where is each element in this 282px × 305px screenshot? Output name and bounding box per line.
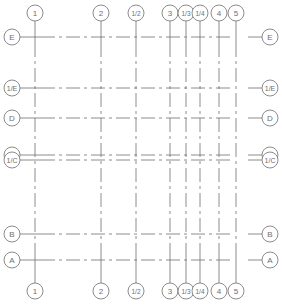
axis-label: D (9, 114, 15, 123)
horizontal-axis-bubbles: EE1/E1/EDDCC1/C1/CBBAA (4, 29, 278, 268)
vertical-axis-bubbles: 11221/21/2331/31/31/41/44455 (27, 5, 244, 299)
axis-bubble-axis-3-top[interactable]: 3 (162, 5, 178, 21)
axis-bubble-axis-a-left[interactable]: A (4, 252, 20, 268)
axis-label: 1/3 (181, 10, 190, 17)
axis-bubble-axis-5-top[interactable]: 5 (228, 5, 244, 21)
axis-bubble-axis-4-bottom[interactable]: 4 (211, 283, 227, 299)
axis-label: 1 (33, 9, 38, 18)
axis-label: 1/E (7, 85, 18, 92)
axis-label: E (9, 33, 14, 42)
axis-label: 1/3 (181, 288, 190, 295)
axis-label: 1 (33, 287, 38, 296)
axis-grid: EE1/E1/EDDCC1/C1/CBBAA 11221/21/2331/31/… (0, 0, 282, 305)
axis-label: 5 (234, 287, 239, 296)
axis-label: D (267, 114, 273, 123)
horizontal-axis-lines (20, 37, 262, 260)
axis-bubble-axis-2-bottom[interactable]: 2 (93, 283, 109, 299)
axis-label: 2 (99, 287, 104, 296)
axis-label: B (9, 230, 14, 239)
axis-bubble-axis-b-right[interactable]: B (262, 226, 278, 242)
axis-bubble-axis-1-e-left[interactable]: 1/E (4, 80, 20, 96)
axis-bubble-axis-1-2-bottom[interactable]: 1/2 (128, 283, 144, 299)
axis-bubble-axis-1-4-bottom[interactable]: 1/4 (192, 283, 208, 299)
axis-bubble-axis-e-right[interactable]: E (262, 29, 278, 45)
cad-drawing-canvas: EE1/E1/EDDCC1/C1/CBBAA 11221/21/2331/31/… (0, 0, 282, 305)
axis-bubble-axis-d-right[interactable]: D (262, 110, 278, 126)
vertical-axis-lines (35, 21, 236, 283)
axis-label: 1/4 (195, 288, 204, 295)
axis-label: 1/E (265, 85, 276, 92)
axis-bubble-axis-4-top[interactable]: 4 (211, 5, 227, 21)
axis-label: 4 (217, 287, 222, 296)
axis-bubble-axis-1-bottom[interactable]: 1 (27, 283, 43, 299)
axis-bubble-axis-1-e-right[interactable]: 1/E (262, 80, 278, 96)
axis-bubble-axis-2-top[interactable]: 2 (93, 5, 109, 21)
axis-label: B (267, 230, 272, 239)
axis-bubble-axis-1-4-top[interactable]: 1/4 (192, 5, 208, 21)
axis-bubble-axis-a-right[interactable]: A (262, 252, 278, 268)
axis-label: 5 (234, 9, 239, 18)
axis-label: 1/2 (131, 288, 140, 295)
axis-bubble-axis-1-c-left[interactable]: 1/C (4, 152, 20, 168)
axis-label: 3 (168, 287, 173, 296)
axis-bubble-axis-5-bottom[interactable]: 5 (228, 283, 244, 299)
axis-bubble-axis-1-c-right[interactable]: 1/C (262, 152, 278, 168)
axis-label: A (9, 256, 15, 265)
axis-label: 1/4 (195, 10, 204, 17)
axis-bubble-axis-b-left[interactable]: B (4, 226, 20, 242)
axis-label: 2 (99, 9, 104, 18)
axis-label: 4 (217, 9, 222, 18)
axis-bubble-axis-3-bottom[interactable]: 3 (162, 283, 178, 299)
axis-label: 1/2 (131, 10, 140, 17)
axis-label: E (267, 33, 272, 42)
axis-label: 3 (168, 9, 173, 18)
axis-label: A (267, 256, 273, 265)
axis-bubble-axis-1-top[interactable]: 1 (27, 5, 43, 21)
axis-bubble-axis-d-left[interactable]: D (4, 110, 20, 126)
axis-label: 1/C (7, 157, 18, 164)
axis-label: 1/C (265, 157, 276, 164)
axis-bubble-axis-e-left[interactable]: E (4, 29, 20, 45)
axis-bubble-axis-1-2-top[interactable]: 1/2 (128, 5, 144, 21)
